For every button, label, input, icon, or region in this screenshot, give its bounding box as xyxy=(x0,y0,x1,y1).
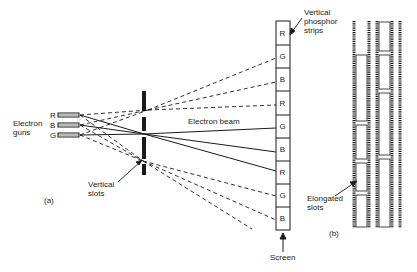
screen-pointer-arrow xyxy=(280,233,286,252)
panel-a-label: (a) xyxy=(44,196,54,205)
panel-b-label: (b) xyxy=(329,229,339,238)
strip-label: G xyxy=(276,122,289,131)
electron-guns-label: Electron guns xyxy=(13,119,42,137)
gun-label-r: R xyxy=(50,111,56,120)
gun-label-b: B xyxy=(50,121,55,130)
vertical-slots-label: Vertical slots xyxy=(88,180,114,198)
solid-beams xyxy=(80,115,276,171)
screen-label: Screen xyxy=(270,253,295,262)
strip-label: B xyxy=(276,214,289,223)
gun-label-g: G xyxy=(50,131,56,140)
slot-mask-panel xyxy=(354,21,404,228)
slots-pointer-arrow xyxy=(118,160,142,182)
electron-gun-g xyxy=(58,133,79,137)
electron-gun-r xyxy=(58,113,79,117)
strip-label: R xyxy=(276,29,289,38)
strip-label: B xyxy=(276,145,289,154)
strip-label: G xyxy=(276,191,289,200)
strip-label: R xyxy=(276,99,289,108)
strip-label: G xyxy=(276,52,289,61)
strips-pointer-arrow xyxy=(290,18,302,35)
diagram-canvas xyxy=(0,0,417,272)
phosphor-strips-label: Vertical phosphor strips xyxy=(304,8,337,35)
beam-label: Electron beam xyxy=(188,117,240,126)
electron-gun-b xyxy=(58,123,79,127)
strip-label: R xyxy=(276,168,289,177)
strip-label: B xyxy=(276,75,289,84)
elongated-slots-label: Elongated slots xyxy=(307,194,343,212)
